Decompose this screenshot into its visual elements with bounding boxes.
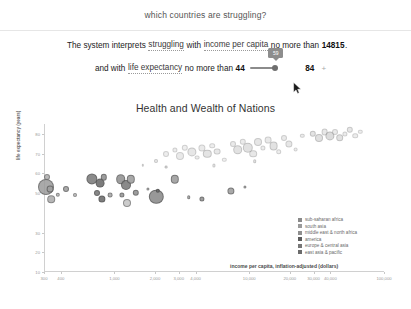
chart-bubble[interactable] — [285, 140, 292, 147]
chart-bubble[interactable] — [214, 148, 221, 155]
x-tick-label: 2,000 — [150, 276, 160, 281]
interpret-connector: with — [186, 41, 201, 50]
x-tick-mark — [314, 272, 315, 274]
chart-bubble[interactable] — [342, 131, 347, 136]
chart-bubble[interactable] — [108, 193, 113, 198]
y-tick-label: 20 — [35, 250, 40, 255]
chart-bubble[interactable] — [261, 145, 266, 150]
comparator-life-expectancy: no more than — [185, 64, 233, 73]
x-tick-label: 10,000 — [243, 276, 256, 281]
chart-bubble[interactable] — [163, 151, 169, 157]
x-tick-mark — [44, 272, 45, 274]
chart-bubble[interactable] — [227, 187, 234, 194]
slider-value-tooltip: 59 — [268, 48, 283, 58]
legend-label: europe & central asia — [305, 243, 348, 248]
interpret-prefix-2: and with — [95, 64, 126, 73]
life-expectancy-max-value[interactable]: 84 — [305, 64, 314, 73]
chart-bubble[interactable] — [126, 175, 134, 183]
chart-bubble[interactable] — [352, 133, 358, 139]
chart-bubble[interactable] — [233, 145, 243, 155]
chart-bubble[interactable] — [47, 186, 54, 193]
chart-bubble[interactable] — [133, 190, 139, 196]
legend-label: east asia & pacific — [305, 250, 342, 255]
chart-bubble[interactable] — [203, 149, 211, 157]
chart-bubble[interactable] — [96, 179, 105, 188]
legend-swatch — [298, 250, 302, 254]
chart-bubble[interactable] — [243, 186, 246, 189]
y-tick-label: 60 — [35, 171, 40, 176]
legend-item[interactable]: south asia — [298, 224, 400, 229]
y-tick-mark — [42, 173, 44, 174]
chart-bubble[interactable] — [165, 166, 168, 169]
legend-label: america — [305, 237, 321, 242]
chart-bubble[interactable] — [187, 195, 191, 199]
query-text: which countries are struggling? — [145, 10, 267, 20]
life-expectancy-min-value[interactable]: 44 — [236, 64, 245, 73]
x-tick-mark — [249, 272, 250, 274]
x-axis-title: income per capita, inflation-adjusted (d… — [230, 263, 338, 269]
chart-bubble[interactable] — [222, 157, 226, 161]
chart-bubble[interactable] — [276, 149, 282, 155]
interpretation-panel: The system interprets struggling with in… — [0, 31, 411, 76]
chart-bubble[interactable] — [63, 186, 69, 192]
y-tick-label: 10 — [35, 270, 40, 275]
y-axis-line — [44, 124, 45, 272]
legend-item[interactable]: europe & central asia — [298, 243, 400, 248]
legend-item[interactable]: middle east & north africa — [298, 230, 400, 235]
chart-bubble[interactable] — [210, 143, 216, 149]
chart-bubble[interactable] — [249, 150, 257, 158]
income-threshold-value[interactable]: 14815 — [322, 41, 345, 50]
y-tick-mark — [42, 134, 44, 135]
chart-bubble[interactable] — [293, 147, 298, 152]
chart-bubble[interactable] — [120, 192, 125, 197]
slider-handle[interactable] — [272, 65, 278, 71]
legend-swatch — [298, 244, 302, 248]
x-tick-mark — [155, 272, 156, 274]
chart-bubble[interactable] — [141, 164, 143, 166]
measure-token-life-expectancy[interactable]: life expectancy — [128, 63, 182, 74]
concept-token-struggling[interactable]: struggling — [148, 40, 184, 51]
legend-item[interactable]: sub-saharan africa — [298, 217, 400, 222]
interpret-prefix: The system interprets — [67, 41, 146, 50]
legend-item[interactable]: america — [298, 237, 400, 242]
chart-bubble[interactable] — [55, 193, 59, 197]
x-tick-mark — [179, 272, 180, 274]
x-tick-mark — [330, 272, 331, 274]
chart-bubble[interactable] — [176, 152, 184, 160]
chart-bubble[interactable] — [253, 160, 257, 164]
x-tick-label: 30,000 — [307, 276, 320, 281]
x-tick-label: 40,000 — [324, 276, 337, 281]
chart-bubble[interactable] — [154, 159, 158, 163]
chart-bubble[interactable] — [347, 127, 353, 133]
chart-bubble[interactable] — [48, 195, 56, 203]
legend-swatch — [298, 224, 302, 228]
chart-bubble[interactable] — [100, 174, 106, 180]
y-tick-mark — [42, 154, 44, 155]
life-expectancy-slider[interactable]: 59 — [250, 60, 276, 76]
legend-swatch — [298, 218, 302, 222]
x-tick-label: 100,000 — [376, 276, 391, 281]
chart-bubble[interactable] — [212, 164, 215, 167]
chart-title: Health and Wealth of Nations — [0, 102, 411, 114]
chart-bubble[interactable] — [44, 174, 50, 180]
legend-label: middle east & north africa — [305, 230, 357, 235]
measure-token-income[interactable]: income per capita — [204, 40, 269, 51]
chart-legend: sub-saharan africasouth asiamiddle east … — [298, 217, 400, 257]
add-filter-icon[interactable]: + — [321, 64, 326, 73]
chart-bubble[interactable] — [171, 175, 179, 183]
chart-bubble[interactable] — [123, 199, 131, 207]
x-tick-mark — [114, 272, 115, 274]
y-tick-label: 70 — [35, 151, 40, 156]
x-tick-mark — [290, 272, 291, 274]
x-tick-label: 300 — [41, 276, 48, 281]
chart-bubble[interactable] — [300, 134, 304, 138]
chart-bubble[interactable] — [98, 195, 105, 202]
legend-swatch — [298, 231, 302, 235]
chart-bubble[interactable] — [200, 196, 205, 201]
chart-bubble[interactable] — [146, 188, 149, 191]
legend-item[interactable]: east asia & pacific — [298, 250, 400, 255]
chart-bubble[interactable] — [195, 155, 200, 160]
chart-bubble[interactable] — [73, 193, 77, 197]
chart-bubble[interactable] — [358, 130, 362, 134]
legend-swatch — [298, 237, 302, 241]
